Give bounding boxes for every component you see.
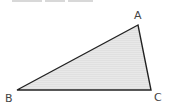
vertex-label-c: C <box>154 91 162 104</box>
triangle-abc <box>17 25 151 90</box>
vertex-label-a: A <box>134 9 142 22</box>
vertex-label-b: B <box>5 92 13 105</box>
triangle-diagram: A B C <box>0 0 177 106</box>
